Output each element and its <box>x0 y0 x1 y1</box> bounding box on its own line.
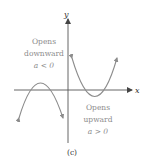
svg-text:upward: upward <box>84 115 113 124</box>
caption: (c) <box>67 148 77 157</box>
parabola-diagram: x y Opens downward a < 0 Opens upward a … <box>0 0 144 167</box>
upward-parabola <box>72 58 117 97</box>
svg-text:a < 0: a < 0 <box>34 61 55 70</box>
x-axis-label: x <box>135 86 140 95</box>
svg-text:downward: downward <box>24 49 64 58</box>
upward-label: Opens upward a > 0 <box>84 103 113 136</box>
downward-parabola <box>19 83 63 118</box>
svg-text:a > 0: a > 0 <box>88 127 109 136</box>
svg-text:Opens: Opens <box>32 37 56 46</box>
y-axis-label: y <box>63 10 69 19</box>
downward-label: Opens downward a < 0 <box>24 37 64 70</box>
svg-text:Opens: Opens <box>86 103 110 112</box>
